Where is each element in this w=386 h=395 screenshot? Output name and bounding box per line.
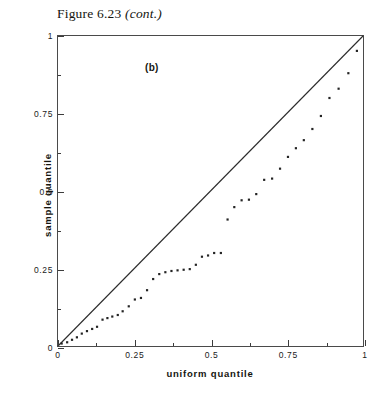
data-point: [328, 97, 330, 99]
x-axis-tick: [135, 340, 136, 346]
plot-frame: 00.250.50.75100.250.50.751: [57, 35, 364, 347]
data-point: [111, 315, 113, 317]
data-point: [248, 199, 250, 201]
data-point: [338, 88, 340, 90]
scatter-plot-svg: [58, 36, 363, 346]
y-axis-tick: [58, 348, 64, 349]
data-point: [86, 330, 88, 332]
y-axis-minor-tick: [58, 231, 61, 232]
data-point: [207, 254, 209, 256]
panel-label: (b): [145, 62, 159, 73]
data-point: [96, 326, 98, 328]
y-axis-minor-tick: [58, 153, 61, 154]
y-axis-tick-label: 1: [48, 31, 53, 41]
data-point: [213, 252, 215, 254]
x-axis-tick-label: 0.75: [279, 350, 298, 360]
y-axis-tick-label: 0.25: [34, 265, 53, 275]
data-point: [201, 256, 203, 258]
data-point: [170, 270, 172, 272]
data-point: [71, 339, 73, 341]
data-point: [117, 314, 119, 316]
data-point: [76, 336, 78, 338]
data-point: [347, 72, 349, 74]
y-axis-tick: [58, 36, 64, 37]
data-point: [311, 128, 313, 130]
x-axis-minor-tick: [327, 343, 328, 346]
data-point: [226, 218, 228, 220]
y-axis-title: sample quantile: [42, 153, 53, 237]
data-point: [195, 264, 197, 266]
x-axis-tick-label: 0.25: [125, 350, 144, 360]
data-point: [320, 115, 322, 117]
data-point: [66, 341, 68, 343]
y-axis-tick-label: 0: [48, 343, 53, 353]
x-axis-tick: [212, 340, 213, 346]
data-point: [183, 269, 185, 271]
data-point: [303, 139, 305, 141]
data-point: [146, 289, 148, 291]
data-point: [91, 328, 93, 330]
data-point: [140, 297, 142, 299]
x-axis-tick-label: 0: [55, 350, 60, 360]
data-point: [61, 342, 63, 344]
data-point: [158, 273, 160, 275]
x-axis-minor-tick: [96, 343, 97, 346]
figure-container: Figure 6.23 (cont.) 00.250.50.75100.250.…: [0, 0, 386, 395]
y-axis-tick: [58, 114, 64, 115]
data-point: [122, 310, 124, 312]
data-point: [81, 333, 83, 335]
y-axis-minor-tick: [58, 309, 61, 310]
data-point: [134, 298, 136, 300]
x-axis-tick-label: 0.5: [205, 350, 219, 360]
y-axis-minor-tick: [58, 75, 61, 76]
figure-caption-cont: (cont.): [125, 6, 162, 21]
figure-caption: Figure 6.23 (cont.): [57, 6, 162, 22]
data-point: [279, 168, 281, 170]
x-axis-tick: [288, 340, 289, 346]
data-point: [220, 252, 222, 254]
x-axis-tick: [58, 340, 59, 346]
data-point: [128, 305, 130, 307]
x-axis-title: uniform quantile: [166, 368, 253, 379]
identity-reference-line: [58, 36, 363, 346]
x-axis-tick: [365, 340, 366, 346]
data-point: [255, 193, 257, 195]
data-point: [189, 268, 191, 270]
data-point: [241, 199, 243, 201]
data-point: [233, 206, 235, 208]
y-axis-tick: [58, 270, 64, 271]
data-series: [61, 50, 358, 345]
data-point: [176, 269, 178, 271]
data-point: [287, 156, 289, 158]
data-point: [295, 147, 297, 149]
x-axis-minor-tick: [250, 343, 251, 346]
plot-area: 00.250.50.75100.250.50.751: [58, 36, 363, 346]
data-point: [152, 278, 154, 280]
y-axis-tick-label: 0.75: [34, 109, 53, 119]
data-point: [101, 319, 103, 321]
y-axis-tick: [58, 192, 64, 193]
data-point: [271, 178, 273, 180]
x-axis-tick-label: 1: [362, 350, 367, 360]
data-point: [356, 50, 358, 52]
data-point: [106, 317, 108, 319]
figure-caption-prefix: Figure 6.23: [57, 6, 121, 21]
data-point: [164, 271, 166, 273]
x-axis-minor-tick: [173, 343, 174, 346]
data-point: [263, 179, 265, 181]
